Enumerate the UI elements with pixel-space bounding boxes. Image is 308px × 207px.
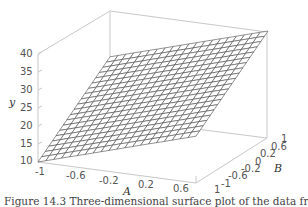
y-axis-label: B	[274, 163, 282, 174]
x-tick-label: 1	[214, 185, 220, 195]
x-tick-label: 0.6	[173, 184, 189, 194]
surface-plot-figure: 40 35 30 25 20 15 10 y -1 -0.6 -0.2 0.2 …	[0, 0, 308, 207]
z-axis-ticks	[38, 52, 42, 162]
x-tick-label: 0.2	[138, 180, 154, 190]
z-tick-label: 30	[20, 85, 33, 95]
x-tick-label: -0.2	[99, 176, 119, 186]
z-tick-label: 40	[20, 49, 33, 59]
figure-caption: Figure 14.3 Three-dimensional surface pl…	[4, 195, 308, 207]
surface-mesh	[38, 31, 268, 162]
z-axis-label: y	[9, 97, 15, 108]
z-tick-label: 35	[20, 67, 33, 77]
z-tick-label: 25	[20, 103, 33, 113]
x-tick-label: -1	[35, 167, 45, 177]
z-tick-label: 20	[20, 121, 33, 131]
z-tick-label: 15	[20, 139, 33, 149]
surface-plot-canvas	[0, 0, 308, 207]
x-tick-label: -0.6	[66, 171, 86, 181]
z-tick-label: 10	[20, 156, 33, 166]
y-tick-label: 1	[281, 134, 287, 144]
